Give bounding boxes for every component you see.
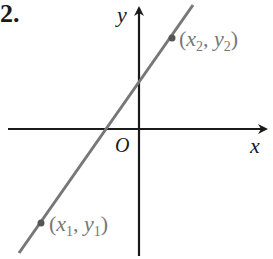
- origin-label: O: [115, 134, 129, 156]
- problem-number: 2.: [0, 0, 20, 28]
- x-axis-label: x: [249, 133, 260, 158]
- y-axis-label: y: [115, 2, 127, 27]
- point-1-label: (x1, y1): [49, 211, 108, 239]
- point-1: [38, 220, 45, 227]
- point-2: [169, 35, 176, 42]
- coordinate-diagram: 2. y x O (x2, y2) (x1, y1): [0, 0, 273, 259]
- point-2-label: (x2, y2): [179, 26, 238, 54]
